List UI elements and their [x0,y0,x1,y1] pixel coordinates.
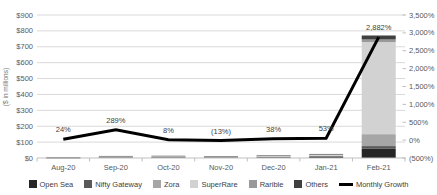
growth-value-label: 2,882% [366,23,392,32]
right-axis-tick-label: (500%) [409,154,434,163]
right-axis-tick-label: 0% [409,136,420,145]
x-axis-category-label: Jan-21 [315,163,338,172]
legend-label: Monthly Growth [356,180,409,189]
legend-item-others: Others [294,180,328,189]
left-axis-tick-label: $900 [16,11,33,20]
right-axis-tick-label: 500% [409,118,429,127]
legend-swatch-icon [294,180,302,188]
left-axis-title: ($ in millions) [2,68,10,106]
legend-item-nifty-gateway: Nifty Gateway [84,180,142,189]
x-axis-category-label: Dec-20 [261,163,285,172]
legend: Open SeaNifty GatewayZoraSuperRareRaribl… [0,175,437,193]
growth-value-label: 53% [319,124,334,133]
bar-segment-superrare [362,42,396,134]
right-axis-tick-label: 1,500% [409,82,435,91]
data-labels: 24%289%8%(13%)38%53%2,882% [56,23,392,135]
legend-swatch-icon [153,180,161,188]
left-axis-tick-label: $100 [16,138,33,147]
legend-item-zora: Zora [153,180,179,189]
left-axis-tick-label: $300 [16,106,33,115]
bar-segment-zora [362,134,396,146]
legend-label: Zora [164,180,179,189]
chart-plot-area: ($ in millions) $0$100$200$300$400$500$6… [0,0,437,176]
x-axis-category-label: Oct-20 [157,163,180,172]
growth-value-label: 24% [56,125,71,134]
legend-item-rarible: Rarible [249,180,284,189]
growth-value-label: 38% [266,125,281,134]
legend-swatch-icon [29,180,37,188]
right-axis-tick-label: 2,500% [409,46,435,55]
legend-swatch-icon [190,180,198,188]
bar-segment-superrare [257,156,291,157]
x-axis-category-label: Sep-20 [104,163,128,172]
legend-item-open-sea: Open Sea [29,180,74,189]
legend-label: Others [305,180,328,189]
nft-marketplace-volume-chart: ($ in millions) $0$100$200$300$400$500$6… [0,0,437,195]
legend-swatch-icon [84,180,92,188]
bar-segment-open-sea [362,148,396,158]
growth-value-label: (13%) [211,127,232,136]
legend-swatch-icon [249,180,257,188]
bar-segment-nifty-gateway [309,156,343,157]
left-axis-tick-label: $400 [16,90,33,99]
growth-value-label: 289% [106,116,126,125]
legend-label: SuperRare [201,180,237,189]
legend-label: Open Sea [40,180,74,189]
left-axis-tick-label: $0 [25,154,33,163]
legend-label: Rarible [260,180,284,189]
legend-item-monthly-growth: Monthly Growth [339,180,409,189]
x-axis-category-label: Nov-20 [209,163,233,172]
x-axis-category-label: Feb-21 [367,163,391,172]
gridlines [37,15,405,142]
legend-item-superrare: SuperRare [190,180,237,189]
legend-label: Nifty Gateway [95,180,142,189]
left-axis-tick-label: $200 [16,122,33,131]
bar-segment-rarible [309,154,343,155]
left-axis-tick-label: $700 [16,42,33,51]
growth-value-label: 8% [163,126,174,135]
right-axis-tick-label: 1,000% [409,100,435,109]
left-axis-tick-label: $500 [16,74,33,83]
bar-segment-superrare [309,155,343,156]
left-axis-tick-label: $800 [16,26,33,35]
bar-segment-nifty-gateway [362,146,396,148]
x-axis-category-label: Aug-20 [51,163,75,172]
right-axis-tick-label: 3,500% [409,11,435,20]
legend-line-swatch-icon [339,183,353,186]
left-axis-tick-label: $600 [16,58,33,67]
right-axis-tick-label: 2,000% [409,64,435,73]
right-axis-tick-label: 3,000% [409,28,435,37]
